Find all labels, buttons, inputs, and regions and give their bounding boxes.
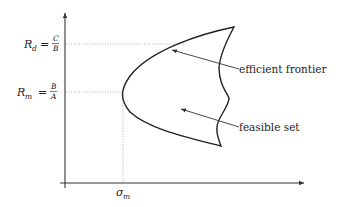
svg-text:=: = (40, 38, 49, 51)
svg-text:B: B (50, 82, 57, 91)
svg-text:m: m (123, 192, 130, 201)
feasible-set-label: feasible set (239, 121, 300, 133)
svg-text:=: = (38, 86, 47, 99)
svg-text:m: m (25, 92, 32, 101)
svg-text:d: d (32, 44, 37, 53)
svg-text:R: R (16, 86, 25, 99)
svg-text:A: A (50, 92, 57, 101)
r-d-label: R d = C B (23, 34, 59, 53)
svg-text:B: B (52, 44, 59, 53)
svg-text:R: R (23, 38, 32, 51)
diagram-canvas: R d = C B R m = B A σ m efficient fronti… (0, 0, 337, 207)
sigma-m-label: σ m (116, 186, 130, 201)
feasible-set-pointer (181, 109, 239, 127)
r-m-label: R m = B A (16, 82, 57, 101)
efficient-frontier-pointer (172, 50, 239, 69)
efficient-frontier-label: efficient frontier (239, 63, 328, 75)
feasible-set-boundary (123, 27, 235, 146)
svg-text:C: C (53, 34, 59, 43)
